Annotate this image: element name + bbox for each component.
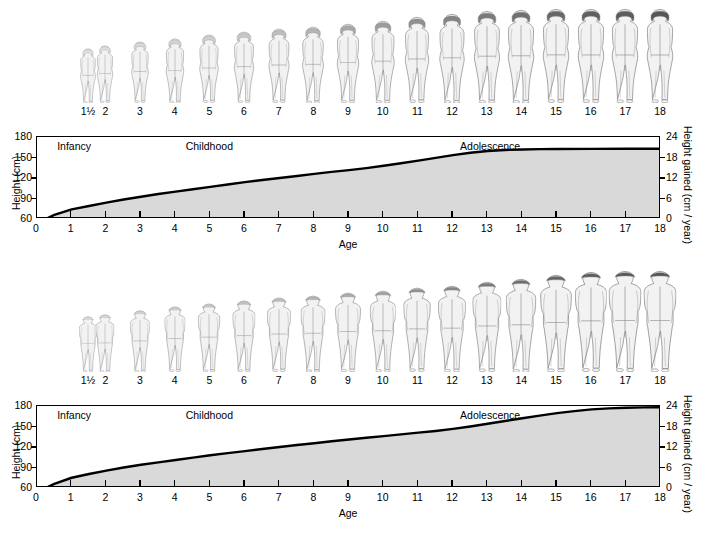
x-axis-tick xyxy=(521,480,523,487)
figure-age-label: 16 xyxy=(585,373,597,387)
y-axis-tick-label: 180 xyxy=(2,131,32,141)
curve-fill xyxy=(37,149,659,217)
x-axis-tick-label: 6 xyxy=(241,222,247,234)
male-growth-panel: 1½23456789101112131415161718InfancyChild… xyxy=(0,269,710,538)
figure-age-label: 7 xyxy=(276,104,282,118)
figure-age-label: 6 xyxy=(241,104,247,118)
x-axis-tick-label: 8 xyxy=(310,222,316,234)
figure-silhouette xyxy=(438,285,466,372)
y-axis-right-title: Height gained (cm / year) xyxy=(682,395,694,513)
x-axis-tick-label: 12 xyxy=(446,491,458,503)
figure-age-label: 15 xyxy=(550,373,562,387)
figure-age-label: 5 xyxy=(206,373,212,387)
x-axis-tick-label: 17 xyxy=(619,222,631,234)
x-axis-tick xyxy=(521,211,523,218)
y-axis-right-tick xyxy=(660,198,665,200)
x-axis-tick-label: 3 xyxy=(137,491,143,503)
figure-age-label-row: 1½23456789101112131415161718 xyxy=(0,373,710,387)
x-axis-tick-label: 11 xyxy=(412,491,423,503)
figure-silhouette xyxy=(370,20,396,103)
figure-silhouette xyxy=(404,287,432,372)
figure-silhouette xyxy=(438,13,467,104)
x-axis-tick-label: 15 xyxy=(550,491,562,503)
x-axis-tick-label: 7 xyxy=(276,222,282,234)
x-axis-tick xyxy=(417,211,419,218)
x-axis-tick xyxy=(451,211,453,218)
x-axis-tick xyxy=(174,211,176,218)
figure-age-label: 10 xyxy=(377,104,389,118)
figure-silhouette xyxy=(506,278,537,373)
figure-silhouette xyxy=(164,306,185,372)
figure-silhouette xyxy=(609,270,642,372)
figure-silhouette xyxy=(130,310,150,372)
figure-age-label: 3 xyxy=(137,104,143,118)
x-axis-tick-label: 9 xyxy=(345,222,351,234)
x-axis-tick-label: 1 xyxy=(68,491,74,503)
x-axis-tick xyxy=(174,480,176,487)
x-axis-tick-label: 10 xyxy=(377,222,389,234)
figure-silhouette xyxy=(472,10,501,103)
figure-age-label: 2 xyxy=(102,104,108,118)
figure-silhouette xyxy=(404,16,431,103)
figure-silhouette xyxy=(199,34,221,103)
figure-silhouette xyxy=(335,292,361,372)
x-axis-tick xyxy=(243,211,245,218)
y-axis-right-title: Height gained (cm / year) xyxy=(682,126,694,244)
x-axis-tick-label: 16 xyxy=(585,491,597,503)
figure-age-label: 1½ xyxy=(81,104,96,118)
male-height-chart: InfancyChildhoodAdolescence6090120150180… xyxy=(0,387,710,538)
figure-silhouette xyxy=(541,8,571,103)
x-axis-tick-label: 1 xyxy=(68,222,74,234)
x-axis-tick-label: 13 xyxy=(481,491,493,503)
x-axis-tick-label: 15 xyxy=(550,222,562,234)
x-axis-tick xyxy=(313,480,315,487)
x-axis-tick xyxy=(209,211,211,218)
figure-age-label: 4 xyxy=(172,104,178,118)
figure-age-label: 17 xyxy=(619,373,631,387)
figure-silhouette xyxy=(645,8,675,103)
x-axis-tick-label: 12 xyxy=(446,222,458,234)
figure-silhouette xyxy=(198,303,220,372)
figure-silhouette xyxy=(130,41,149,103)
y-axis-tick-label: 180 xyxy=(2,400,32,410)
figure-age-label: 11 xyxy=(412,373,423,387)
figure-age-label: 9 xyxy=(345,104,351,118)
x-axis-tick-label: 2 xyxy=(102,491,108,503)
x-axis-tick xyxy=(555,211,557,218)
figure-age-label: 8 xyxy=(310,104,316,118)
x-axis-title: Age xyxy=(339,238,358,250)
x-axis-tick-label: 16 xyxy=(585,222,597,234)
y-axis-tick-label: 60 xyxy=(2,213,32,223)
x-axis-tick xyxy=(625,480,627,487)
x-axis-tick-label: 17 xyxy=(619,491,631,503)
x-axis-tick-label: 2 xyxy=(102,222,108,234)
figure-age-label-row: 1½23456789101112131415161718 xyxy=(0,104,710,118)
figure-silhouette xyxy=(610,8,640,103)
y-axis-title: Height (cm) xyxy=(10,156,22,210)
figure-age-label: 18 xyxy=(654,373,666,387)
x-axis-tick xyxy=(139,211,141,218)
x-axis-tick xyxy=(105,480,107,487)
female-figure-row xyxy=(0,0,710,104)
x-axis-tick-label: 4 xyxy=(172,491,178,503)
x-axis-tick-label: 8 xyxy=(310,491,316,503)
x-axis-tick xyxy=(70,480,72,487)
y-axis-title: Height (cm) xyxy=(10,425,22,479)
figure-age-label: 3 xyxy=(137,373,143,387)
y-axis-right-tick xyxy=(660,177,665,179)
x-axis-tick xyxy=(243,480,245,487)
x-axis-tick xyxy=(313,211,315,218)
x-axis-tick-label: 11 xyxy=(412,222,423,234)
x-axis-tick xyxy=(139,480,141,487)
x-axis-tick xyxy=(486,480,488,487)
y-axis-right-tick xyxy=(660,157,665,159)
figure-age-label: 4 xyxy=(172,373,178,387)
x-axis-tick-label: 0 xyxy=(33,222,39,234)
figure-silhouette xyxy=(301,295,326,372)
x-axis-tick xyxy=(382,480,384,487)
x-axis-tick xyxy=(625,211,627,218)
x-axis-tick-label: 5 xyxy=(206,491,212,503)
figure-silhouette xyxy=(472,281,502,372)
figure-silhouette xyxy=(643,270,676,372)
figure-age-label: 7 xyxy=(276,373,282,387)
